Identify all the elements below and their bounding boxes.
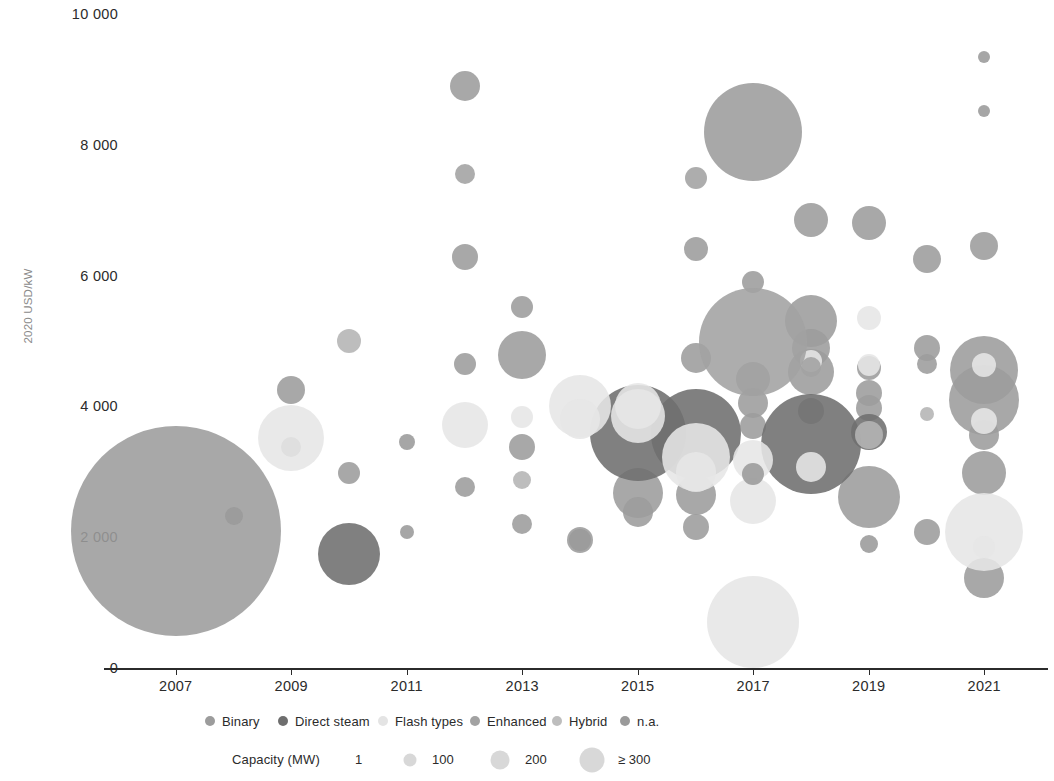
data-point [858,354,880,376]
data-point [971,408,997,434]
x-tick-mark [522,668,523,675]
plot-area [118,14,1042,668]
data-point [337,329,361,353]
legend-label: Binary [222,714,260,729]
size-legend-bubble [491,751,510,770]
legend-label: Enhanced [487,714,547,729]
data-point [945,493,1023,571]
data-point [973,536,995,558]
data-point [962,451,1006,495]
data-point [914,519,940,545]
data-point [455,164,475,184]
x-tick-mark [984,668,985,675]
x-tick-label: 2017 [713,678,793,694]
legend-swatch-icon [205,716,215,726]
legend-swatch-icon [470,716,480,726]
legend-swatch-icon [278,716,288,726]
data-point [794,203,828,237]
data-point [399,434,415,450]
data-point [796,452,826,482]
data-point [676,452,716,492]
legend-label: Flash types [395,714,463,729]
data-point [512,514,532,534]
size-legend-label: ≥ 300 [618,752,650,767]
x-tick-mark [291,668,292,675]
y-tick-label: 6 000 [44,269,118,284]
x-tick-mark [638,668,639,675]
y-tick-label: 10 000 [44,7,118,22]
data-point [498,331,546,379]
data-point [400,525,414,539]
legend-item-flash-types[interactable]: Flash types [378,710,463,732]
x-tick-label: 2009 [251,678,331,694]
bubble-chart: 2020 USD/kW 02 0004 0006 0008 00010 000 … [0,0,1054,781]
data-point [801,357,821,377]
x-tick-mark [176,668,177,675]
legend-label: Hybrid [569,714,607,729]
data-point [509,434,535,460]
data-point [707,576,799,668]
data-point [258,405,324,471]
data-point [277,376,305,404]
x-tick-label: 2007 [136,678,216,694]
size-legend-bubble [580,748,605,773]
legend-item-direct-steam[interactable]: Direct steam [278,710,370,732]
x-tick-mark [407,668,408,675]
data-point [569,529,591,551]
data-point [855,421,883,449]
x-tick-label: 2019 [829,678,909,694]
data-point [685,167,707,189]
data-point [913,245,941,273]
data-point [225,507,243,525]
legend-item-hybrid[interactable]: Hybrid [552,710,607,732]
data-point [450,71,480,101]
data-point [684,237,708,261]
data-point [511,296,533,318]
data-point [442,402,488,448]
x-tick-label: 2021 [944,678,1024,694]
y-tick-label: 8 000 [44,138,118,153]
legend-item-enhanced[interactable]: Enhanced [470,710,547,732]
data-point [513,471,531,489]
data-point [917,354,937,374]
data-point [683,514,709,540]
color-legend: BinaryDirect steamFlash typesEnhancedHyb… [0,710,1054,734]
x-tick-label: 2013 [482,678,562,694]
legend-swatch-icon [378,716,388,726]
data-point [611,389,665,443]
data-point [978,105,990,117]
legend-item-n-a[interactable]: n.a. [620,710,659,732]
data-point [972,353,996,377]
data-point [852,206,886,240]
data-point [452,244,478,270]
data-point [920,407,934,421]
y-tick-label: 4 000 [44,399,118,414]
legend-item-binary[interactable]: Binary [205,710,260,732]
size-legend-title: Capacity (MW) [232,752,320,767]
legend-label: n.a. [637,714,659,729]
data-point [970,232,998,260]
legend-swatch-icon [620,716,630,726]
data-point [623,497,653,527]
data-point [704,83,802,181]
data-point [742,463,764,485]
data-point [454,353,476,375]
size-legend-label: 200 [525,752,547,767]
data-point [860,535,878,553]
size-legend-label: 1 [355,752,362,767]
size-legend-label: 100 [432,752,454,767]
legend-swatch-icon [552,716,562,726]
data-points-layer [118,14,1042,668]
size-legend: Capacity (MW) 1100200≥ 300 [0,748,1054,778]
x-axis-ticks: 20072009201120132015201720192021 [0,668,1054,708]
x-tick-label: 2011 [367,678,447,694]
data-point [978,51,990,63]
x-tick-mark [753,668,754,675]
data-point [318,523,380,585]
x-tick-label: 2015 [598,678,678,694]
legend-label: Direct steam [295,714,370,729]
data-point [511,406,533,428]
size-legend-bubble [404,754,417,767]
data-point [560,399,600,439]
data-point [857,306,881,330]
